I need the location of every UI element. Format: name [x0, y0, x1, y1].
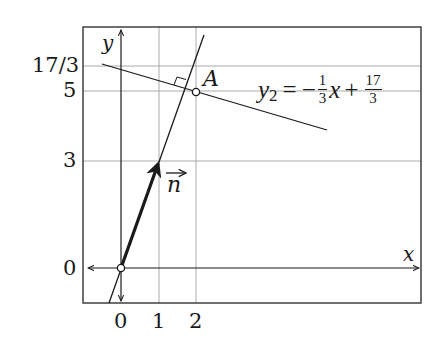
grid	[83, 26, 421, 303]
y-axis-label: y	[102, 33, 113, 53]
point-a	[192, 88, 199, 95]
x-tick-1: 1	[152, 311, 165, 332]
x-tick-2: 2	[189, 311, 202, 332]
eq-minus: −	[302, 77, 316, 102]
origin-point	[117, 264, 124, 271]
plot-frame	[83, 27, 421, 303]
eq-const-fraction: 17 3	[365, 73, 382, 106]
x-axis-label: x	[403, 244, 414, 264]
eq-plus: +	[344, 77, 358, 102]
eq-coef-den: 3	[319, 90, 327, 106]
y-tick-17-3: 17/3	[32, 55, 79, 76]
eq-const-den: 3	[369, 90, 377, 106]
vector-n	[121, 164, 158, 268]
line-equation: y 2 = − 1 3 x + 17 3	[258, 73, 384, 106]
eq-const-num: 17	[365, 73, 382, 90]
y-tick-3: 3	[63, 150, 76, 171]
eq-coef-fraction: 1 3	[318, 73, 328, 106]
x-tick-0: 0	[114, 311, 127, 332]
y-tick-5: 5	[63, 80, 76, 101]
point-a-label: A	[203, 66, 219, 91]
eq-lhs-sub: 2	[269, 87, 278, 104]
eq-var: x	[329, 77, 340, 102]
right-angle-marker	[174, 77, 186, 85]
vector-n-label: n	[167, 174, 181, 196]
y-tick-0: 0	[63, 258, 76, 279]
eq-lhs: y	[258, 77, 269, 102]
eq-coef-num: 1	[318, 73, 328, 90]
eq-equals: =	[283, 77, 297, 102]
